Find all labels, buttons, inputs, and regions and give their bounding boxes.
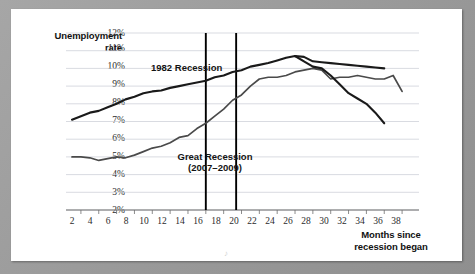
figure-root: Unemploymentrate Months sincerecession b… — [0, 0, 475, 274]
x-axis-ticks — [81, 210, 402, 214]
chart-area: Unemploymentrate Months sincerecession b… — [11, 9, 462, 261]
series-label-1982-recession: 1982 Recession — [151, 62, 222, 73]
gridlines — [66, 33, 419, 210]
page-artifact-mark: ♪ — [224, 249, 228, 258]
series-line-1982-recession — [72, 56, 384, 120]
series-label-great-recession: Great Recession (2007–2009) — [163, 151, 267, 173]
plot-canvas — [11, 9, 462, 261]
chart-page-sheet: Unemploymentrate Months sincerecession b… — [11, 9, 462, 261]
